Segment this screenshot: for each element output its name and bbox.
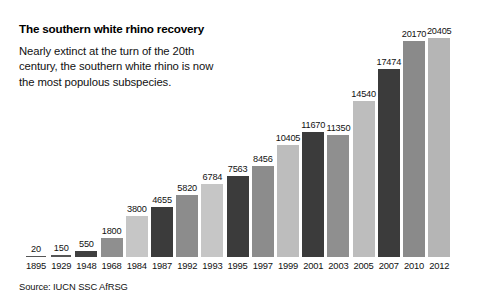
- bar: [302, 132, 324, 257]
- bar-value-label: 150: [54, 243, 69, 253]
- bar-value-label: 17474: [377, 57, 402, 67]
- axis-tick-label: 1995: [228, 260, 248, 271]
- bar: [101, 238, 123, 257]
- bar-group: 84561997: [251, 166, 275, 257]
- bar-value-label: 6784: [203, 172, 223, 182]
- bar-group: 113502003: [326, 135, 350, 257]
- axis-tick-label: 2010: [404, 260, 424, 271]
- bar-group: 204052012: [427, 38, 451, 257]
- axis-tick-label: 1948: [76, 260, 96, 271]
- bar: [151, 207, 173, 257]
- bar: [26, 256, 46, 258]
- bar-group: 58201992: [175, 195, 199, 257]
- axis-tick-label: 1929: [51, 260, 71, 271]
- bar: [176, 195, 198, 257]
- bar-value-label: 1800: [102, 226, 122, 236]
- bar-value-label: 20405: [427, 26, 452, 36]
- bar-value-label: 20: [31, 244, 41, 254]
- bar-group: 201895: [24, 256, 48, 258]
- axis-tick-label: 1984: [127, 260, 147, 271]
- bar: [277, 145, 299, 257]
- bar: [51, 255, 71, 257]
- bar: [75, 251, 97, 257]
- bar-group: 1501929: [49, 255, 73, 257]
- axis-tick-label: 1997: [253, 260, 273, 271]
- bar-value-label: 11350: [326, 123, 350, 133]
- axis-tick-label: 2003: [328, 260, 348, 271]
- bar-value-label: 14540: [351, 89, 376, 99]
- bar-value-label: 10405: [276, 133, 301, 143]
- bar-value-label: 550: [79, 239, 94, 249]
- bar-value-label: 5820: [177, 183, 197, 193]
- bar-group: 145402005: [352, 101, 376, 257]
- plot-area: 2018951501929550194818001968380019844655…: [0, 0, 502, 303]
- axis-tick-label: 1987: [152, 260, 172, 271]
- bar-group: 67841993: [200, 184, 224, 257]
- rhino-recovery-chart: The southern white rhino recovery Nearly…: [0, 0, 502, 303]
- bar: [403, 41, 425, 257]
- bar-group: 104051999: [276, 145, 300, 257]
- source-note: Source: IUCN SSC AfRSG: [19, 281, 128, 292]
- axis-tick-label: 1992: [177, 260, 197, 271]
- bar-group: 201702010: [402, 41, 426, 257]
- bar-value-label: 4655: [152, 195, 172, 205]
- axis-tick-label: 1895: [26, 260, 46, 271]
- axis-tick-label: 1968: [102, 260, 122, 271]
- bar-group: 46551987: [150, 207, 174, 257]
- bar: [327, 135, 349, 257]
- bar: [428, 38, 450, 257]
- bar-value-label: 20170: [402, 29, 427, 39]
- axis-tick-label: 2001: [303, 260, 323, 271]
- bar: [353, 101, 375, 257]
- bar-value-label: 11670: [301, 120, 325, 130]
- bar-group: 18001968: [100, 238, 124, 257]
- bar-value-label: 8456: [253, 154, 273, 164]
- bar: [201, 184, 223, 257]
- bar-value-label: 7563: [228, 164, 248, 174]
- axis-tick-label: 2007: [379, 260, 399, 271]
- bar-group: 5501948: [74, 251, 98, 257]
- bar: [126, 216, 148, 257]
- bar-group: 174742007: [377, 69, 401, 257]
- bar-value-label: 3800: [127, 204, 147, 214]
- axis-tick-label: 2012: [429, 260, 449, 271]
- axis-tick-label: 1999: [278, 260, 298, 271]
- bar: [252, 166, 274, 257]
- bar: [227, 176, 249, 257]
- bar-group: 75631995: [226, 176, 250, 257]
- bar-group: 38001984: [125, 216, 149, 257]
- axis-tick-label: 1993: [202, 260, 222, 271]
- bar-group: 116702001: [301, 132, 325, 257]
- axis-tick-label: 2005: [354, 260, 374, 271]
- bar: [378, 69, 400, 257]
